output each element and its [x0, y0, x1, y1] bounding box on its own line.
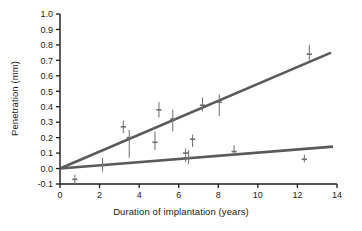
y-axis-tick-label: 1.0	[40, 9, 53, 19]
y-axis-tick-label: 0.3	[40, 117, 53, 127]
x-axis-tick-label: 4	[137, 190, 142, 200]
y-axis-tick-label: 0.4	[40, 102, 53, 112]
x-axis-tick-label: 0	[57, 190, 62, 200]
y-axis-tick-label: -0.1	[37, 179, 53, 189]
y-axis-tick-label: 0.5	[40, 87, 53, 97]
y-axis-tick-label: 0.9	[40, 25, 53, 35]
x-axis-tick-label: 14	[332, 190, 342, 200]
y-axis-tick-label: 0.7	[40, 56, 53, 66]
y-axis-tick-label: 0.1	[40, 148, 53, 158]
x-axis-tick-label: 6	[176, 190, 181, 200]
y-axis: -0.10.00.10.20.30.40.50.60.70.80.91.0	[37, 9, 60, 189]
plot-area: -0.10.00.10.20.30.40.50.60.70.80.91.0 02…	[0, 0, 362, 231]
y-axis-tick-label: 0.0	[40, 164, 53, 174]
y-axis-tick-label: 0.8	[40, 40, 53, 50]
x-axis-tick-label: 12	[292, 190, 302, 200]
x-axis: 02468101214	[57, 184, 342, 200]
data-series-group	[60, 45, 333, 184]
x-axis-tick-label: 10	[253, 190, 263, 200]
penetration-vs-duration-chart: -0.10.00.10.20.30.40.50.60.70.80.91.0 02…	[0, 0, 362, 231]
y-axis-tick-label: 0.6	[40, 71, 53, 81]
x-axis-tick-label: 8	[216, 190, 221, 200]
y-axis-tick-label: 0.2	[40, 133, 53, 143]
x-axis-tick-label: 2	[97, 190, 102, 200]
y-axis-title: Penetration (mm)	[9, 39, 20, 159]
x-axis-title: Duration of implantation (years)	[0, 206, 362, 217]
